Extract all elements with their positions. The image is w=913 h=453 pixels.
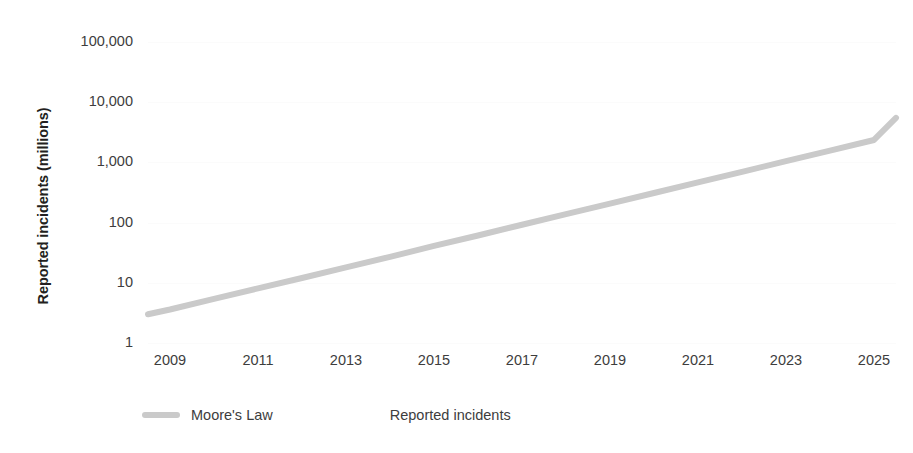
x-axis-tick-label: 2021: [663, 352, 733, 368]
x-axis-tick-label: 2019: [575, 352, 645, 368]
x-axis-tick-label: 2011: [223, 352, 293, 368]
plot-area: [148, 42, 896, 343]
y-axis-tick-label: 100: [53, 214, 133, 230]
x-axis-tick-label: 2009: [135, 352, 205, 368]
legend-item-moores-law[interactable]: Moore's Law: [142, 407, 273, 423]
gridline: [148, 343, 896, 344]
x-axis-tick-label: 2025: [839, 352, 909, 368]
y-axis-tick-label: 10,000: [53, 93, 133, 109]
x-axis-tick-label: 2017: [487, 352, 557, 368]
x-axis-tick-label: 2023: [751, 352, 821, 368]
series-line: [148, 118, 896, 314]
y-axis-tick-label: 100,000: [53, 33, 133, 49]
legend-label-reported-incidents: Reported incidents: [390, 407, 511, 423]
legend-swatch-reported-incidents: [341, 412, 379, 418]
legend-label-moores-law: Moore's Law: [191, 407, 273, 423]
x-axis-tick-label: 2013: [311, 352, 381, 368]
y-axis-tick-label: 1: [53, 334, 133, 350]
legend-swatch-moores-law: [142, 412, 180, 418]
legend-item-reported-incidents[interactable]: Reported incidents: [341, 407, 511, 423]
chart-legend: Moore's Law Reported incidents: [142, 403, 511, 427]
x-axis-tick-label: 2015: [399, 352, 469, 368]
y-axis-title: Reported incidents (millions): [35, 76, 57, 336]
chart-figure: Reported incidents (millions) 100,00010,…: [0, 0, 913, 453]
series-layer: [148, 42, 896, 343]
y-axis-tick-label: 1,000: [53, 153, 133, 169]
y-axis-tick-label: 10: [53, 274, 133, 290]
